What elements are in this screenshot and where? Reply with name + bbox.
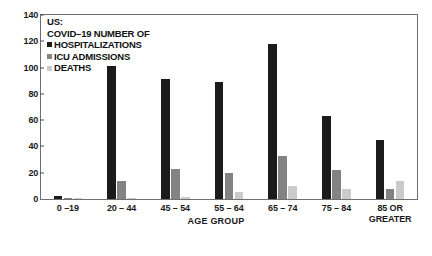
- y-axis-tick-label: 40: [0, 142, 38, 151]
- bar: [268, 44, 277, 199]
- bar: [181, 197, 190, 199]
- bar: [235, 192, 244, 199]
- bar: [342, 189, 351, 200]
- legend-swatch-icon: [47, 54, 52, 59]
- legend-label: HOSPITALIZATIONS: [54, 39, 142, 51]
- legend-item-deaths: DEATHS: [47, 62, 150, 74]
- x-axis-tick-label: 0 –19: [57, 203, 79, 214]
- chart-legend: US: COVID–19 NUMBER OF HOSPITALIZATIONS …: [47, 16, 150, 74]
- bar: [117, 181, 126, 199]
- bar: [225, 173, 234, 199]
- legend-swatch-icon: [47, 66, 52, 71]
- y-axis-tick-label: 20: [0, 168, 38, 177]
- bar-chart: 020406080100120140 0 –1920 – 4445 – 5455…: [0, 0, 432, 256]
- legend-title-line1: US:: [47, 16, 150, 28]
- bar: [74, 198, 83, 199]
- bar: [332, 170, 341, 199]
- x-axis-tick-label: 65 – 74: [268, 203, 297, 214]
- bar: [107, 66, 116, 199]
- bar: [322, 116, 331, 199]
- bar: [161, 79, 170, 199]
- bar: [376, 140, 385, 199]
- bar: [396, 181, 405, 199]
- legend-swatch-icon: [47, 42, 52, 47]
- bar: [54, 196, 63, 199]
- x-axis-tick-label: 45 – 54: [161, 203, 190, 214]
- legend-label: ICU ADMISSIONS: [54, 51, 130, 63]
- bar: [215, 82, 224, 199]
- y-axis-tick-label: 140: [0, 11, 38, 20]
- y-axis-tick-label: 100: [0, 63, 38, 72]
- y-axis-tick-label: 80: [0, 89, 38, 98]
- legend-item-hospitalizations: HOSPITALIZATIONS: [47, 39, 150, 51]
- y-axis-tick-label: 0: [0, 195, 38, 204]
- bar: [386, 189, 395, 200]
- bar: [127, 198, 136, 199]
- legend-item-icu-admissions: ICU ADMISSIONS: [47, 51, 150, 63]
- bar: [288, 186, 297, 199]
- legend-title-line2: COVID–19 NUMBER OF: [47, 28, 150, 40]
- x-axis-tick-label: 55 – 64: [214, 203, 243, 214]
- x-axis-tick-label: 20 – 44: [107, 203, 136, 214]
- bar: [278, 156, 287, 199]
- bar: [64, 198, 73, 199]
- x-axis-title: AGE GROUP: [0, 216, 432, 226]
- y-axis-tick-label: 60: [0, 116, 38, 125]
- legend-label: DEATHS: [54, 62, 91, 74]
- x-axis-tick-label: 75 – 84: [322, 203, 351, 214]
- y-axis-tick-label: 120: [0, 37, 38, 46]
- bar: [171, 169, 180, 199]
